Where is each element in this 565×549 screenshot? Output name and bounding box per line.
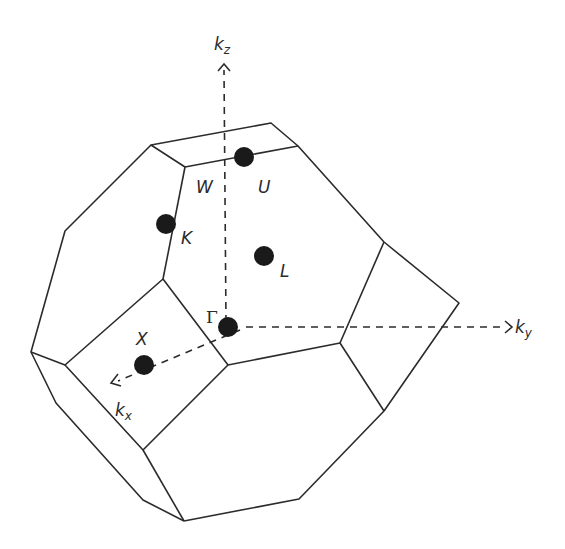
kx-label: kx <box>115 400 133 423</box>
ky-label: ky <box>515 317 533 340</box>
k-point <box>156 214 176 234</box>
brillouin-zone-diagram: kz ky kx Γ X K L U W <box>0 0 565 549</box>
front-hex-top-edge <box>228 343 340 365</box>
gamma-label: Γ <box>206 307 218 327</box>
kz-axis-line <box>224 70 226 322</box>
k-label: K <box>181 228 194 248</box>
u-label: U <box>258 177 271 197</box>
kz-arrowhead-icon <box>218 64 230 71</box>
labels: kz ky kx Γ X K L U W <box>115 34 533 423</box>
l-point <box>254 246 274 266</box>
left-silhouette <box>31 145 184 521</box>
polyhedron-edges <box>31 123 459 521</box>
u-point <box>234 147 254 167</box>
l-label: L <box>280 261 289 281</box>
x-point <box>134 355 154 375</box>
gamma-point <box>218 317 238 337</box>
w-label: W <box>196 177 214 197</box>
kz-label: kz <box>214 34 231 57</box>
x-label: X <box>135 329 148 349</box>
ky-arrowhead-icon <box>505 321 512 333</box>
